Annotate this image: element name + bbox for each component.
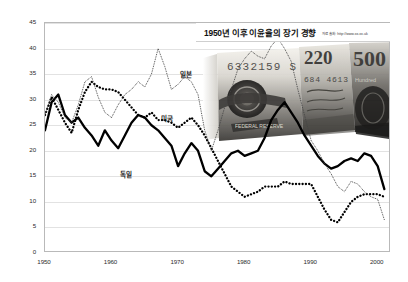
page-title: 1950년 이후 이윤율의 장기 경향 [204, 26, 316, 38]
series-label-usa: 미국 [161, 113, 173, 123]
y-tick-label: 20 [16, 147, 36, 153]
y-tick-label: 15 [16, 172, 36, 178]
x-tick-label: 2000 [362, 258, 392, 265]
x-tick-label: 1980 [229, 258, 259, 265]
y-tick-label: 0 [16, 249, 36, 255]
y-tick-label: 10 [16, 198, 36, 204]
x-tick-label: 1960 [96, 258, 126, 265]
y-tick-label: 5 [16, 223, 36, 229]
x-tick-label: 1950 [29, 258, 59, 265]
series-label-germany: 독일 [120, 169, 132, 179]
y-tick-label: 25 [16, 121, 36, 127]
y-axis: 454035302520151050 [0, 0, 408, 282]
y-tick-label: 45 [16, 19, 36, 25]
x-tick-label: 1990 [295, 258, 325, 265]
y-tick-label: 40 [16, 45, 36, 51]
y-tick-label: 35 [16, 70, 36, 76]
chart-title-banner: 1950년 이후 이윤율의 장기 경향 자료 출처: http://www.xx… [196, 23, 390, 42]
x-tick-label: 1970 [162, 258, 192, 265]
source-note: 자료 출처: http://www.xx.xx.uk [322, 31, 368, 36]
chart-figure: 6332159 S FEDERAL RESERVE 220 684 4613 5… [0, 0, 408, 282]
series-label-japan: 일본 [180, 69, 192, 79]
y-tick-label: 30 [16, 96, 36, 102]
